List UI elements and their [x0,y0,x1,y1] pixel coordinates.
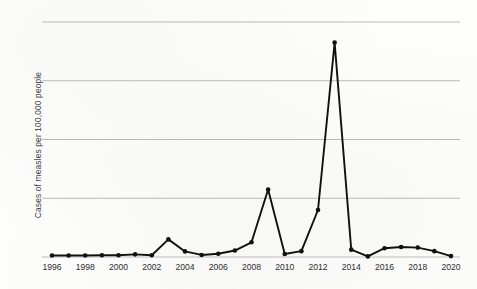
data-point-marker [415,245,420,250]
data-point-marker [266,187,271,192]
data-point-marker [349,247,354,252]
data-point-marker [133,252,138,257]
data-point-marker [166,237,171,242]
data-point-marker [233,248,238,253]
data-point-marker [366,254,371,259]
data-point-marker [216,251,221,256]
data-point-marker [432,249,437,254]
data-point-marker [199,253,204,258]
plot-area [0,0,477,289]
x-axis-tick-label: 2020 [431,262,471,272]
data-point-marker [282,252,287,257]
data-point-marker [100,253,105,258]
data-point-marker [66,253,71,258]
data-point-marker [183,249,188,254]
data-point-marker [116,253,121,258]
gridlines-group [42,22,460,198]
data-series-group [52,43,451,257]
data-point-marker [316,208,321,213]
series-line [52,43,451,257]
data-point-marker [449,254,454,259]
data-point-marker [382,246,387,251]
data-point-marker [50,253,55,258]
measles-line-chart: Cases of measles per 100,000 people 1996… [0,0,477,289]
data-point-marker [399,245,404,250]
data-point-marker [149,253,154,258]
data-point-marker [249,240,254,245]
data-point-marker [83,253,88,258]
data-point-marker [332,40,337,45]
data-point-marker [299,249,304,254]
data-point-markers-group [50,40,454,258]
